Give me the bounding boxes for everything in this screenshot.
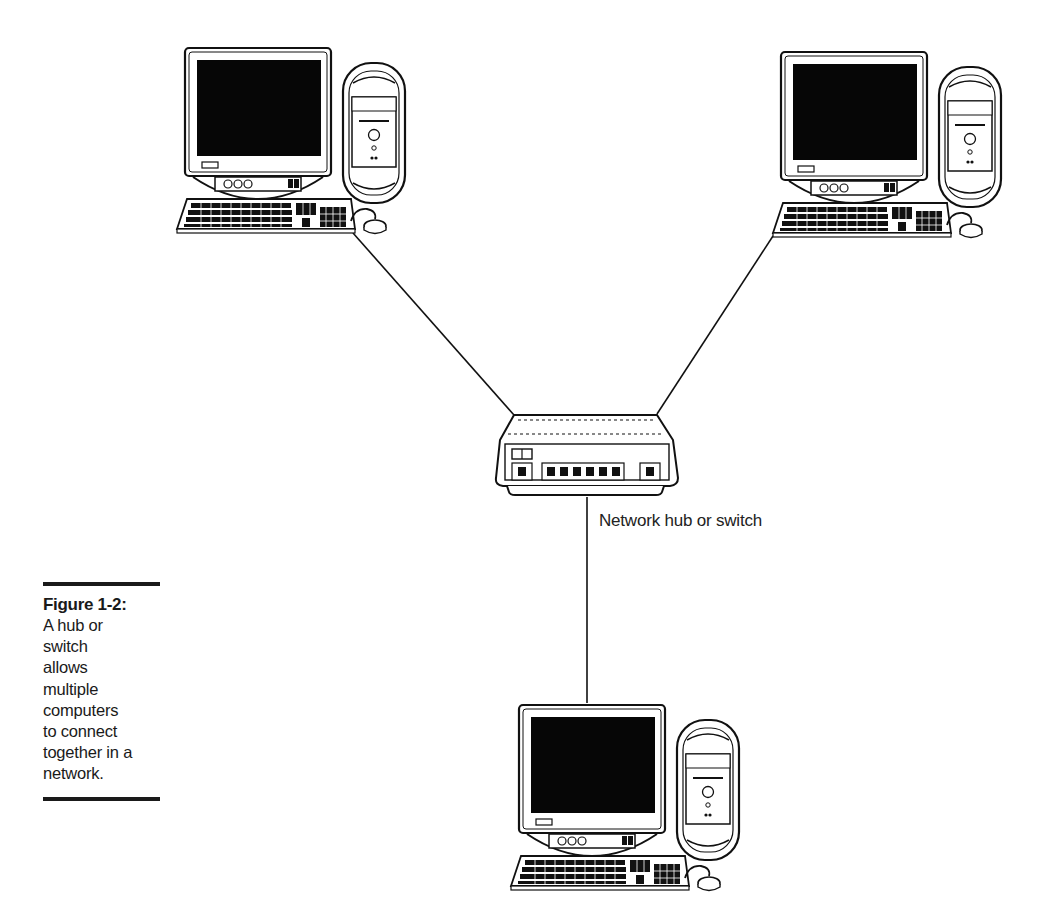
- network-diagram: Network hub or switch Figure 1-2: A hub …: [0, 0, 1053, 924]
- computer-bottom-icon: [511, 705, 739, 891]
- computer-top-right-icon: [773, 52, 1001, 238]
- network-hub-icon: [496, 415, 678, 495]
- caption-line: switch: [43, 636, 161, 657]
- caption-line: allows: [43, 657, 161, 678]
- figure-caption: Figure 1-2: A hub or switch allows multi…: [43, 582, 161, 801]
- caption-line: multiple: [43, 679, 161, 700]
- computer-top-left-icon: [177, 48, 405, 234]
- figure-number: Figure 1-2:: [43, 594, 161, 615]
- caption-line: to connect: [43, 721, 161, 742]
- caption-top-rule: [43, 582, 160, 586]
- link-top-left-to-hub: [353, 233, 514, 415]
- caption-bottom-rule: [43, 797, 160, 801]
- hub-label: Network hub or switch: [599, 511, 762, 531]
- caption-line: together in a: [43, 742, 161, 763]
- caption-text: A hub or switch allows multiple computer…: [43, 615, 161, 785]
- caption-line: computers: [43, 700, 161, 721]
- caption-line: network.: [43, 763, 161, 784]
- link-top-right-to-hub: [657, 236, 773, 414]
- caption-line: A hub or: [43, 615, 161, 636]
